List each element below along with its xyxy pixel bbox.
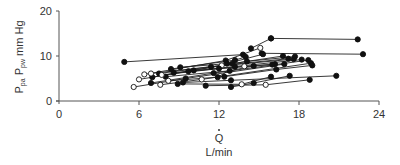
filled-circle-marker (227, 68, 232, 73)
filled-circle-marker (244, 59, 249, 64)
open-circle-marker (136, 77, 141, 82)
x-title-unit: L/min (206, 146, 233, 158)
filled-circle-marker (222, 74, 227, 79)
y-axis-title: Ppa Ppw mm Hg (13, 21, 27, 94)
filled-circle-marker (299, 57, 304, 62)
open-circle-marker (142, 72, 147, 77)
open-circle-marker (158, 82, 163, 87)
filled-circle-marker (178, 65, 183, 70)
filled-circle-marker (334, 73, 339, 78)
filled-circle-marker (287, 73, 292, 78)
filled-circle-marker (360, 52, 365, 57)
filled-circle-marker (232, 64, 237, 69)
filled-circle-marker (191, 68, 196, 73)
filled-circle-marker (274, 67, 279, 72)
filled-circle-marker (168, 66, 173, 71)
open-circle-marker (131, 84, 136, 89)
open-circle-marker (258, 45, 263, 50)
filled-circle-marker (251, 63, 256, 68)
scatter-line-chart: 01020 06121824 Q L/min Ppa Ppw mm Hg (0, 0, 400, 165)
x-tick-label: 24 (373, 108, 385, 120)
filled-circle-marker (292, 54, 297, 59)
filled-circle-marker (232, 58, 237, 63)
y-title-unit: mm Hg (13, 21, 25, 60)
filled-circle-marker (228, 78, 233, 83)
y-ticks: 01020 (40, 5, 59, 107)
open-circle-marker (263, 82, 268, 87)
filled-circle-marker (307, 77, 312, 82)
filled-circle-marker (248, 46, 253, 51)
open-circle-marker (199, 77, 204, 82)
filled-circle-marker (268, 74, 273, 79)
filled-circle-marker (203, 83, 208, 88)
open-circle-marker (159, 72, 164, 77)
x-ticks: 06121824 (56, 101, 385, 120)
x-tick-label: 18 (293, 108, 305, 120)
y-title-p1: P (13, 86, 25, 93)
filled-circle-marker (268, 36, 273, 41)
x-tick-label: 0 (56, 108, 62, 120)
x-title-symbol: Q (215, 132, 224, 144)
filled-circle-marker (228, 84, 233, 89)
y-tick-label: 20 (40, 5, 52, 17)
filled-circle-marker (148, 80, 153, 85)
filled-circle-marker (175, 81, 180, 86)
series-line (271, 38, 358, 39)
filled-circle-marker (215, 75, 220, 80)
filled-circle-marker (310, 63, 315, 68)
series-line (262, 53, 363, 54)
filled-circle-marker (282, 62, 287, 67)
filled-circle-marker (211, 71, 216, 76)
open-circle-marker (166, 78, 171, 83)
y-title-sub1: pa (19, 78, 27, 86)
x-tick-label: 6 (136, 108, 142, 120)
y-title-p2: P (13, 68, 25, 78)
plot-area (122, 36, 366, 90)
open-circle-marker (242, 64, 247, 69)
x-tick-label: 12 (213, 108, 225, 120)
open-circle-marker (148, 71, 153, 76)
filled-circle-marker (224, 61, 229, 66)
filled-circle-marker (251, 80, 256, 85)
filled-circle-marker (186, 69, 191, 74)
open-circle-marker (239, 82, 244, 87)
y-tick-label: 0 (46, 95, 52, 107)
filled-circle-marker (122, 59, 127, 64)
series-lines (124, 38, 363, 87)
y-tick-label: 10 (40, 50, 52, 62)
filled-circle-marker (355, 37, 360, 42)
x-axis-title: Q L/min (206, 129, 233, 158)
filled-circle-marker (208, 64, 213, 69)
filled-circle-marker (270, 62, 275, 67)
dot-accent-icon (218, 129, 220, 131)
filled-circle-marker (286, 56, 291, 61)
y-title-text: Ppa Ppw mm Hg (13, 21, 27, 94)
filled-circle-marker (216, 66, 221, 71)
filled-circle-marker (260, 52, 265, 57)
filled-circle-marker (280, 53, 285, 58)
filled-circle-marker (180, 80, 185, 85)
